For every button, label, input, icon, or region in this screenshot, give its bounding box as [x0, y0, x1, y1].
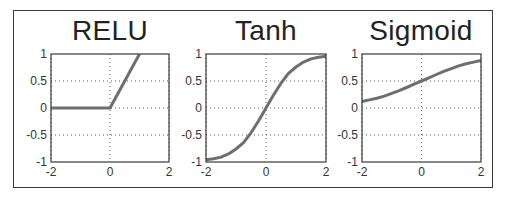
y-tick-label: 1 — [351, 47, 358, 61]
x-tick-label: -2 — [46, 165, 57, 179]
x-tick-label: 2 — [166, 165, 173, 179]
y-tick-label: 0 — [40, 101, 47, 115]
y-tick-label: 0 — [351, 101, 358, 115]
x-tick-label: -2 — [201, 165, 212, 179]
y-tick-label: 0.5 — [341, 74, 358, 88]
x-tick-label: 0 — [107, 165, 114, 179]
x-tick-label: -2 — [357, 165, 368, 179]
x-tick-label: 2 — [478, 165, 485, 179]
x-tick-label: 0 — [263, 165, 270, 179]
y-tick-label: 1 — [195, 47, 202, 61]
relu-plot: 10.50-0.5-1-202 — [26, 47, 172, 179]
plots-canvas: 10.50-0.5-1-202 10.50-0.5-1-202 10.50-0.… — [0, 0, 505, 203]
tanh-plot: 10.50-0.5-1-202 — [181, 47, 329, 179]
sigmoid-plot: 10.50-0.5-1-202 — [337, 47, 484, 179]
x-tick-label: 2 — [323, 165, 330, 179]
y-tick-label: -0.5 — [181, 128, 202, 142]
y-tick-label: 1 — [40, 47, 47, 61]
y-tick-label: -0.5 — [26, 128, 47, 142]
y-tick-label: 0.5 — [30, 74, 47, 88]
data-line — [206, 56, 326, 160]
x-tick-label: 0 — [418, 165, 425, 179]
y-tick-label: 0 — [195, 101, 202, 115]
y-tick-label: 0.5 — [185, 74, 202, 88]
y-tick-label: -0.5 — [337, 128, 358, 142]
